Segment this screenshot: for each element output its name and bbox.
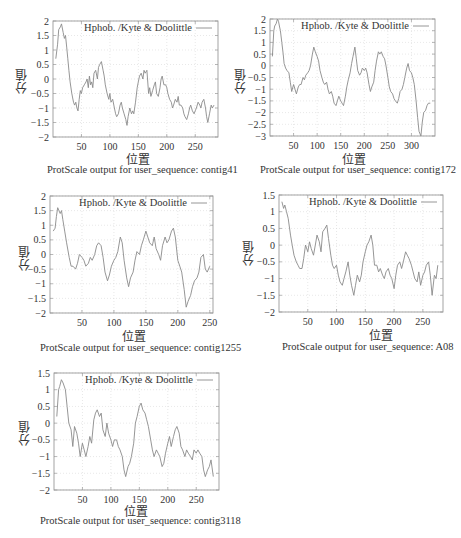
- chart-plot: −2−1.5−1−0.500.511.5250100150200250Hphob…: [0, 0, 230, 180]
- svg-text:0: 0: [41, 249, 46, 260]
- legend: Hphob. /Kyte & Doolittle: [301, 20, 429, 31]
- svg-text:−0.5: −0.5: [257, 256, 275, 267]
- svg-text:Hphob. /Kyte & Doolittle: Hphob. /Kyte & Doolittle: [84, 22, 192, 33]
- y-axis-label: 分值: [232, 68, 249, 94]
- svg-text:2: 2: [261, 14, 266, 25]
- grid-lines: [50, 196, 213, 313]
- y-tick-labels: −2−1.5−1−0.500.511.5: [257, 190, 275, 318]
- chart-plot: −2−1.5−1−0.500.511.550100150200250Hphob.…: [230, 180, 461, 360]
- svg-text:−0.5: −0.5: [248, 72, 266, 83]
- svg-text:200: 200: [160, 494, 175, 505]
- chart-plot: −2−1.5−1−0.500.511.5250100150200250Hphob…: [0, 180, 230, 360]
- svg-text:50: 50: [77, 317, 87, 328]
- svg-text:Hphob. /Kyte & Doolittle: Hphob. /Kyte & Doolittle: [85, 374, 193, 385]
- svg-text:−1.5: −1.5: [28, 293, 46, 304]
- legend: Hphob. /Kyte & Doolittle: [309, 196, 437, 207]
- chart-plot: −2−1.5−1−0.500.511.550100150200250Hphob.…: [0, 360, 230, 538]
- x-tick-labels: 50100150200250: [303, 316, 431, 327]
- svg-text:−0.5: −0.5: [32, 434, 50, 445]
- chart-caption: ProtScale output for user_sequence: cont…: [40, 515, 241, 526]
- y-tick-labels: −2−1.5−1−0.500.511.52: [31, 16, 49, 143]
- grid-lines: [54, 373, 219, 490]
- grid-lines: [270, 19, 435, 136]
- svg-text:1.5: 1.5: [38, 368, 51, 379]
- plot-frame: [279, 195, 443, 312]
- svg-text:250: 250: [202, 317, 217, 328]
- y-axis-label: 分值: [16, 420, 33, 446]
- svg-text:200: 200: [159, 141, 174, 152]
- svg-text:0.5: 0.5: [38, 401, 51, 412]
- chart-panel-contig1255: −2−1.5−1−0.500.511.5250100150200250Hphob…: [0, 180, 230, 360]
- grid-lines: [279, 195, 443, 312]
- svg-text:Hphob. /Kyte & Doolittle: Hphob. /Kyte & Doolittle: [309, 196, 417, 207]
- svg-text:50: 50: [76, 141, 86, 152]
- svg-text:0.5: 0.5: [34, 234, 47, 245]
- svg-text:100: 100: [106, 317, 121, 328]
- y-axis-label: 分值: [13, 68, 30, 94]
- svg-text:0: 0: [261, 60, 266, 71]
- svg-text:−1: −1: [255, 84, 266, 95]
- svg-text:0.5: 0.5: [263, 223, 276, 234]
- svg-text:0.5: 0.5: [37, 59, 50, 70]
- svg-text:Hphob. /Kyte & Doolittle: Hphob. /Kyte & Doolittle: [301, 20, 409, 31]
- svg-text:250: 250: [189, 494, 204, 505]
- data-line: [282, 202, 438, 296]
- tick-marks: [279, 195, 443, 312]
- svg-text:1.5: 1.5: [263, 190, 276, 201]
- svg-text:−0.5: −0.5: [31, 88, 49, 99]
- svg-text:1: 1: [261, 37, 266, 48]
- svg-text:300: 300: [404, 140, 419, 151]
- tick-marks: [54, 373, 219, 490]
- svg-text:−2: −2: [39, 485, 50, 496]
- svg-text:1.5: 1.5: [34, 205, 47, 216]
- svg-text:1.5: 1.5: [37, 30, 50, 41]
- legend: Hphob. /Kyte & Doolittle: [79, 197, 207, 208]
- legend: Hphob. /Kyte & Doolittle: [85, 374, 213, 385]
- y-tick-labels: −3−2.5−2−1.5−1−0.500.511.52: [248, 14, 266, 142]
- y-tick-labels: −2−1.5−1−0.500.511.5: [32, 368, 50, 496]
- chart-caption: ProtScale output for user_sequence: A08: [282, 341, 453, 352]
- svg-text:1.5: 1.5: [254, 25, 267, 36]
- svg-text:−2: −2: [255, 107, 266, 118]
- data-line: [56, 24, 214, 126]
- legend: Hphob. /Kyte & Doolittle: [84, 22, 212, 33]
- svg-text:1: 1: [41, 220, 46, 231]
- svg-text:−1.5: −1.5: [257, 290, 275, 301]
- svg-text:0: 0: [270, 240, 275, 251]
- svg-text:−1: −1: [39, 451, 50, 462]
- svg-text:−2: −2: [38, 132, 49, 143]
- svg-text:−2: −2: [264, 307, 275, 318]
- chart-panel-contig3118: −2−1.5−1−0.500.511.550100150200250Hphob.…: [0, 360, 230, 538]
- svg-text:0: 0: [45, 418, 50, 429]
- svg-text:−1.5: −1.5: [248, 95, 266, 106]
- svg-text:−1: −1: [35, 278, 46, 289]
- svg-text:2: 2: [41, 191, 46, 202]
- svg-text:−2.5: −2.5: [248, 119, 266, 130]
- svg-text:−2: −2: [35, 308, 46, 319]
- svg-text:2: 2: [44, 16, 49, 27]
- svg-text:−1: −1: [264, 273, 275, 284]
- svg-text:100: 100: [310, 140, 325, 151]
- svg-text:50: 50: [289, 140, 299, 151]
- svg-text:1: 1: [45, 384, 50, 395]
- chart-caption: ProtScale output for user_sequence: cont…: [40, 342, 241, 353]
- y-axis-label: 分值: [240, 240, 257, 266]
- svg-text:100: 100: [329, 316, 344, 327]
- svg-text:100: 100: [102, 141, 117, 152]
- y-axis-label: 分值: [16, 245, 33, 271]
- svg-text:0.5: 0.5: [254, 49, 267, 60]
- svg-text:200: 200: [170, 317, 185, 328]
- data-line: [57, 380, 214, 477]
- svg-text:Hphob. /Kyte & Doolittle: Hphob. /Kyte & Doolittle: [79, 197, 187, 208]
- data-line: [53, 208, 210, 308]
- chart-panel-contig172: −3−2.5−2−1.5−1−0.500.511.525010015020025…: [230, 0, 461, 180]
- svg-text:250: 250: [188, 141, 203, 152]
- svg-text:0: 0: [44, 74, 49, 85]
- svg-text:250: 250: [415, 316, 430, 327]
- svg-text:1: 1: [44, 45, 49, 56]
- chart-panel-A08: −2−1.5−1−0.500.511.550100150200250Hphob.…: [230, 180, 461, 360]
- svg-text:−1: −1: [38, 103, 49, 114]
- chart-caption: ProtScale output for user_sequence: cont…: [260, 164, 456, 175]
- svg-text:50: 50: [303, 316, 313, 327]
- grid-lines: [53, 21, 218, 137]
